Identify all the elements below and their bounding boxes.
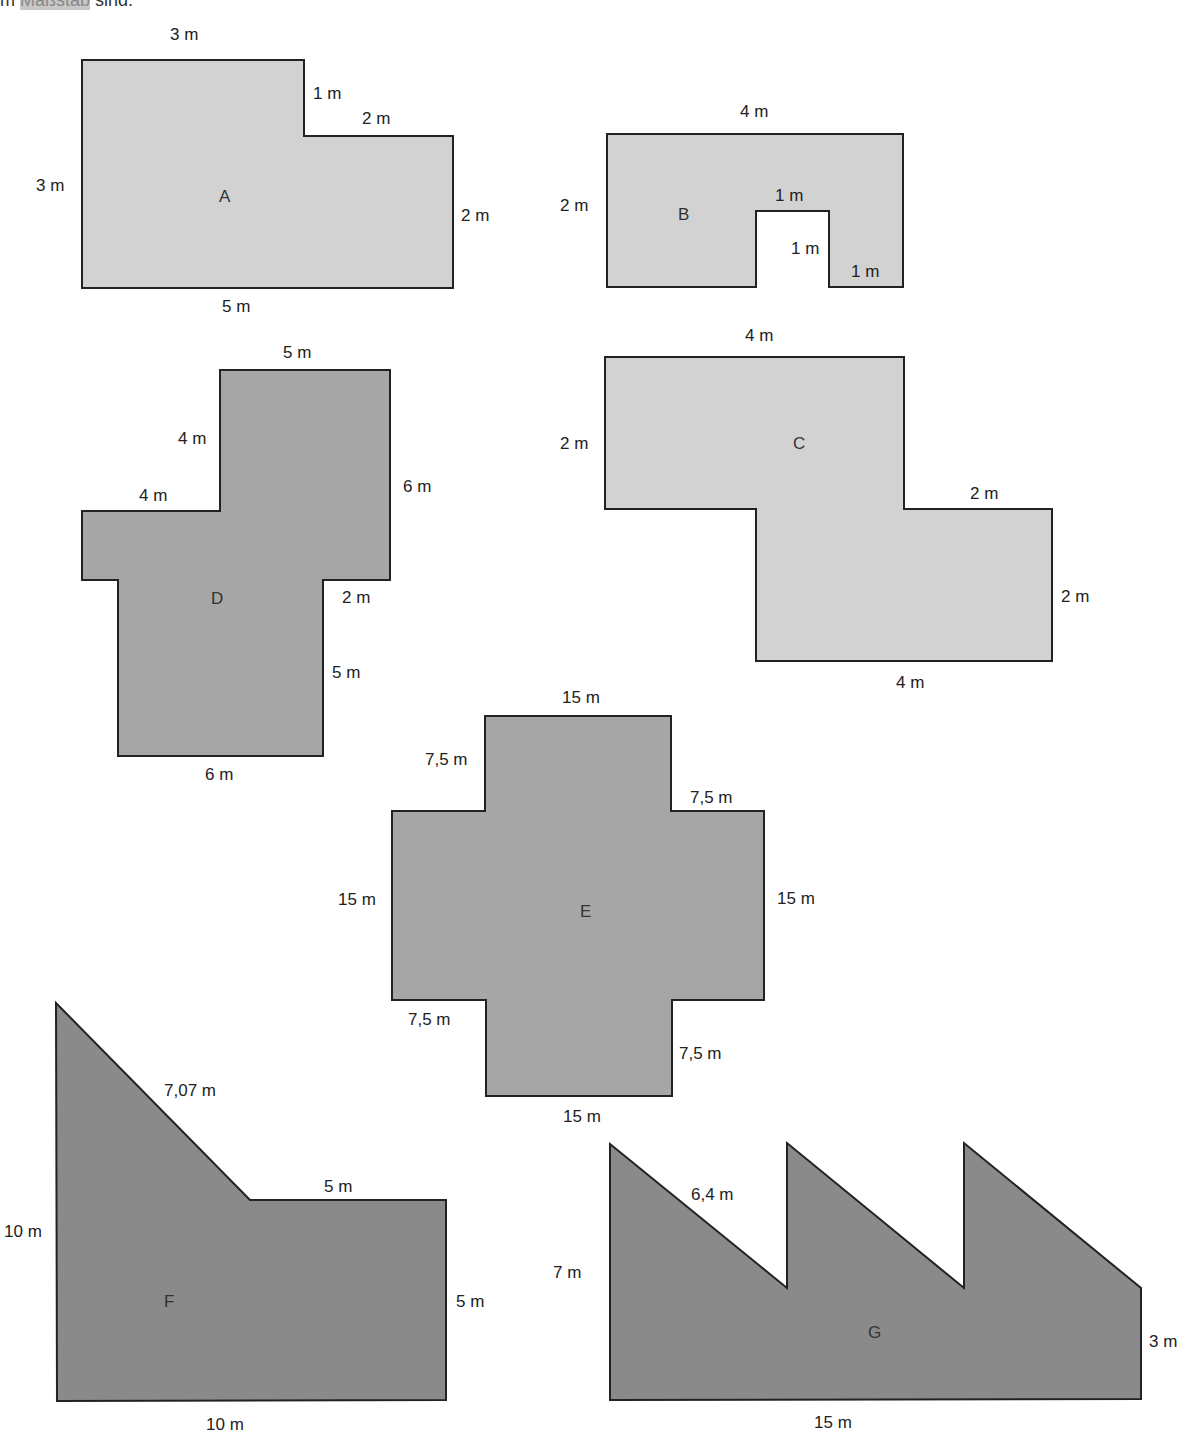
shape-c-label-top: 4 m — [745, 326, 773, 345]
shape-f-label-bottom: 10 m — [206, 1415, 244, 1434]
shape-c-label-left: 2 m — [560, 434, 588, 453]
shape-e-name: E — [580, 902, 591, 921]
shape-c-label-bottom: 4 m — [896, 673, 924, 692]
shape-d: D 5 m 4 m 4 m 6 m 2 m 5 m 6 m — [82, 343, 431, 784]
shape-d-label-lower-right: 5 m — [332, 663, 360, 682]
shape-c: C 4 m 2 m 2 m 2 m 4 m — [560, 326, 1089, 692]
shape-d-label-top: 5 m — [283, 343, 311, 362]
shape-d-name: D — [211, 589, 223, 608]
shape-a-label-bottom: 5 m — [222, 297, 250, 316]
shape-d-label-upper-left-vertical: 4 m — [178, 429, 206, 448]
shape-f: F 7,07 m 5 m 10 m 5 m 10 m — [4, 1003, 484, 1434]
shape-e-label-top: 15 m — [562, 688, 600, 707]
shape-a-polygon — [82, 60, 453, 288]
shape-a-name: A — [219, 187, 231, 206]
shape-g-label-bottom: 15 m — [814, 1413, 852, 1432]
shape-e-label-top-left: 7,5 m — [425, 750, 468, 769]
shape-a-label-step-vertical: 1 m — [313, 84, 341, 103]
shape-f-polygon — [56, 1003, 446, 1401]
shape-d-label-right-step: 2 m — [342, 588, 370, 607]
shape-c-label-right: 2 m — [1061, 587, 1089, 606]
shape-d-label-bottom: 6 m — [205, 765, 233, 784]
shape-d-label-left-horizontal: 4 m — [139, 486, 167, 505]
shape-e-polygon — [392, 716, 764, 1096]
shape-f-name: F — [164, 1292, 174, 1311]
shape-g-name: G — [868, 1323, 881, 1342]
shape-e-label-right: 15 m — [777, 889, 815, 908]
shape-e: E 15 m 7,5 m 7,5 m 15 m 15 m 7,5 m 7,5 m… — [338, 688, 815, 1126]
shape-b-label-notch-side: 1 m — [791, 239, 819, 258]
shape-b-label-bottom-right: 1 m — [851, 262, 879, 281]
shape-g-label-left: 7 m — [553, 1263, 581, 1282]
shape-g-label-right: 3 m — [1149, 1332, 1177, 1351]
shape-a-label-left: 3 m — [36, 176, 64, 195]
shape-e-label-top-right: 7,5 m — [690, 788, 733, 807]
shape-c-name: C — [793, 434, 805, 453]
shape-b-name: B — [678, 205, 689, 224]
shape-b-label-left: 2 m — [560, 196, 588, 215]
shape-e-label-bottom-left: 7,5 m — [408, 1010, 451, 1029]
shape-c-label-step-horizontal: 2 m — [970, 484, 998, 503]
shape-c-polygon — [605, 357, 1052, 661]
shape-b-label-notch-top: 1 m — [775, 186, 803, 205]
shape-f-label-left: 10 m — [4, 1222, 42, 1241]
shape-d-label-right: 6 m — [403, 477, 431, 496]
shape-a-label-step-horizontal: 2 m — [362, 109, 390, 128]
shape-e-label-bottom: 15 m — [563, 1107, 601, 1126]
shape-f-label-right: 5 m — [456, 1292, 484, 1311]
shape-g-label-diagonal: 6,4 m — [691, 1185, 734, 1204]
shape-g: G 6,4 m 7 m 3 m 15 m — [553, 1143, 1177, 1432]
shape-d-polygon — [82, 370, 390, 756]
shape-e-label-left: 15 m — [338, 890, 376, 909]
shape-b-label-top: 4 m — [740, 102, 768, 121]
shape-f-label-step-horizontal: 5 m — [324, 1177, 352, 1196]
shape-b: B 4 m 2 m 1 m 1 m 1 m — [560, 102, 903, 287]
shape-g-polygon — [610, 1143, 1141, 1400]
shape-a-label-top: 3 m — [170, 25, 198, 44]
shape-a-label-right: 2 m — [461, 206, 489, 225]
floor-plan-figures: A 3 m 1 m 2 m 3 m 2 m 5 m B 4 m 2 m 1 m … — [0, 0, 1199, 1453]
shape-e-label-bottom-right: 7,5 m — [679, 1044, 722, 1063]
shape-a: A 3 m 1 m 2 m 3 m 2 m 5 m — [36, 25, 489, 316]
shape-f-label-diagonal: 7,07 m — [164, 1081, 216, 1100]
